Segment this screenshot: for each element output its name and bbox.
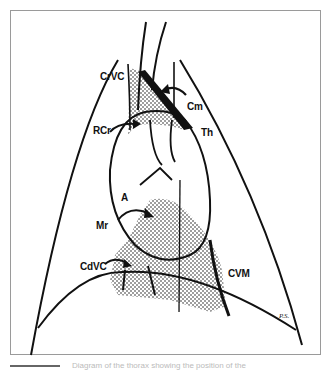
left-thoracic-wall xyxy=(31,60,118,355)
label-cm: Cm xyxy=(187,101,203,112)
label-a: A xyxy=(121,192,128,203)
heart-stipple xyxy=(110,199,226,312)
aorta xyxy=(140,120,175,185)
caption-rule xyxy=(10,365,60,367)
label-crvc: CrVC xyxy=(100,71,124,82)
label-cdvc: CdVC xyxy=(80,261,106,272)
label-rcr: RCr xyxy=(93,125,111,136)
label-mr: Mr xyxy=(96,220,108,231)
artist-signature: P.S. xyxy=(279,312,289,320)
label-cvm: CVM xyxy=(228,268,250,279)
thorax-diagram xyxy=(0,0,327,374)
caption-text: Diagram of the thorax showing the positi… xyxy=(72,361,321,370)
vessel-right xyxy=(152,22,166,90)
figure-caption: Diagram of the thorax showing the positi… xyxy=(10,361,321,371)
label-th: Th xyxy=(201,127,213,138)
